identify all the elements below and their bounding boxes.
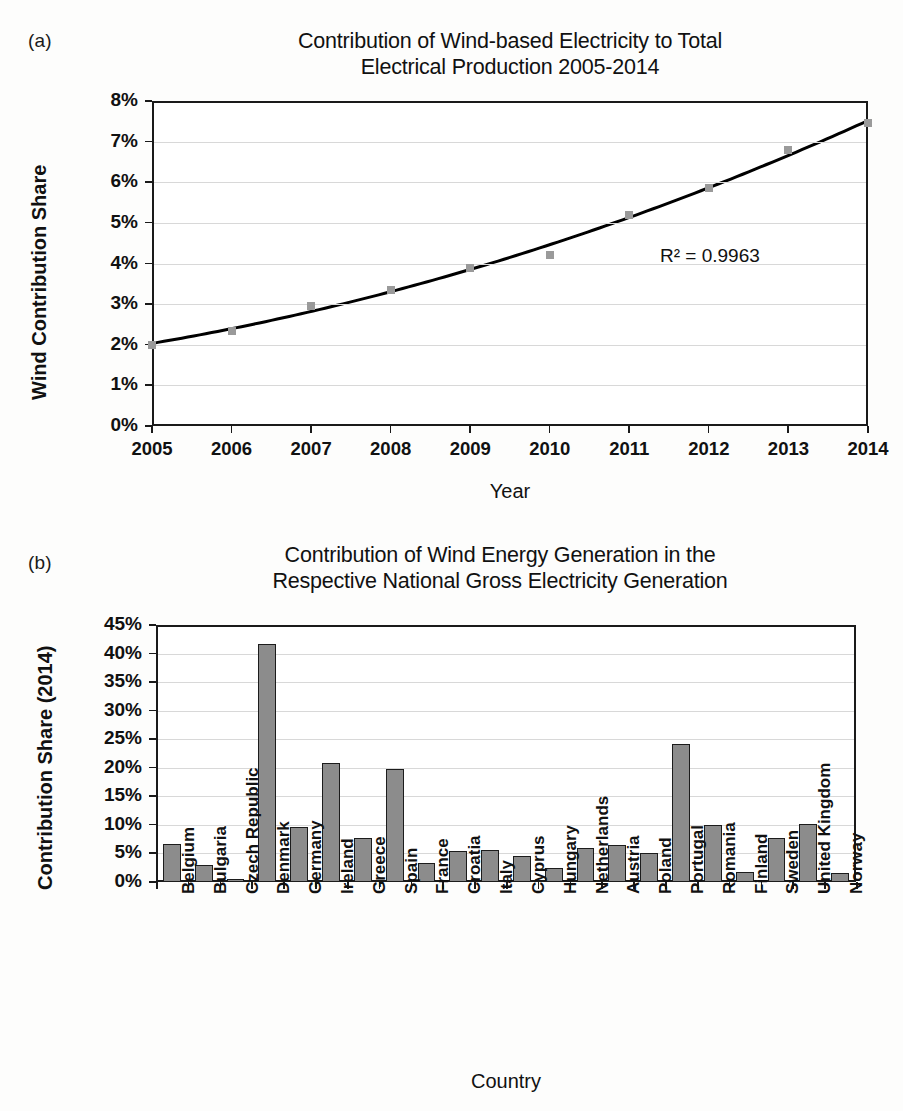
x-tick-label: 2008: [351, 438, 431, 460]
category-label: Cyprus: [529, 835, 549, 894]
x-tickmark: [628, 426, 630, 433]
y-tickmark: [149, 738, 156, 740]
x-tickmark: [787, 426, 789, 433]
category-label: Bulgaria: [211, 826, 231, 894]
data-point-marker: [148, 341, 156, 349]
y-tick-label: 15%: [72, 784, 142, 806]
x-tick-label: 2012: [669, 438, 749, 460]
gridline: [154, 142, 866, 143]
chart-a-plot-area: [152, 101, 868, 426]
x-tickmark: [867, 426, 869, 433]
x-tick-label: 2010: [510, 438, 590, 460]
y-tick-label: 3%: [72, 292, 138, 314]
category-label: Croatia: [465, 835, 485, 894]
x-tick-label: 2007: [271, 438, 351, 460]
data-point-marker: [546, 251, 554, 259]
chart-a-y-axis-title: Wind Contribution Share: [28, 165, 51, 400]
y-tickmark: [149, 624, 156, 626]
data-point-marker: [307, 302, 315, 310]
data-point-marker: [228, 327, 236, 335]
y-tick-label: 0%: [72, 870, 142, 892]
y-tick-label: 5%: [72, 211, 138, 233]
x-tickmark: [390, 426, 392, 433]
gridline: [154, 223, 866, 224]
data-point-marker: [705, 184, 713, 192]
y-tickmark: [149, 852, 156, 854]
chart-a-title-line2: Electrical Production 2005-2014: [160, 54, 860, 80]
y-tickmark: [149, 767, 156, 769]
category-label: Germany: [306, 820, 326, 894]
y-tick-label: 2%: [72, 333, 138, 355]
chart-b-title-line2: Respective National Gross Electricity Ge…: [130, 568, 870, 594]
category-label: Portugal: [688, 825, 708, 894]
y-tick-label: 8%: [72, 89, 138, 111]
category-label: Hungary: [561, 825, 581, 894]
category-label: Greece: [370, 836, 390, 894]
chart-panel-a: (a) Contribution of Wind-based Electrici…: [0, 0, 903, 530]
category-label: Netherlands: [593, 796, 613, 894]
x-tickmark: [156, 882, 158, 889]
category-label: Spain: [402, 848, 422, 894]
category-label: Denmark: [274, 821, 294, 894]
data-point-marker: [864, 119, 872, 127]
y-tickmark: [145, 181, 152, 183]
gridline: [154, 304, 866, 305]
y-tick-label: 4%: [72, 252, 138, 274]
x-tickmark: [708, 426, 710, 433]
category-label: Italy: [497, 860, 517, 894]
chart-a-x-axis-title: Year: [152, 480, 868, 503]
category-label: Belgium: [179, 827, 199, 894]
chart-a-r2-annotation: R² = 0.9963: [660, 245, 760, 267]
category-label: Norway: [847, 833, 867, 894]
y-tick-label: 10%: [72, 813, 142, 835]
y-tick-label: 20%: [72, 756, 142, 778]
gridline: [154, 385, 866, 386]
y-tick-label: 5%: [72, 841, 142, 863]
chart-b-title-line1: Contribution of Wind Energy Generation i…: [130, 542, 870, 568]
chart-panel-b: (b) Contribution of Wind Energy Generati…: [0, 530, 903, 1111]
y-tickmark: [145, 303, 152, 305]
gridline: [154, 182, 866, 183]
y-tickmark: [149, 795, 156, 797]
x-tickmark: [549, 426, 551, 433]
category-label: Czech Republic: [243, 767, 263, 894]
y-tickmark: [149, 681, 156, 683]
x-tickmark: [469, 426, 471, 433]
y-tick-label: 7%: [72, 130, 138, 152]
category-label: Poland: [656, 837, 676, 894]
y-tick-label: 1%: [72, 373, 138, 395]
panel-a-tag: (a): [28, 30, 52, 52]
y-tick-label: 40%: [72, 642, 142, 664]
chart-b-x-axis-title: Country: [156, 1070, 856, 1093]
y-tick-label: 45%: [72, 613, 142, 635]
y-tickmark: [145, 100, 152, 102]
y-tick-label: 0%: [72, 414, 138, 436]
panel-b-tag: (b): [28, 552, 52, 574]
x-tick-label: 2011: [589, 438, 669, 460]
x-tickmark: [310, 426, 312, 433]
data-point-marker: [784, 146, 792, 154]
gridline: [154, 345, 866, 346]
y-tickmark: [145, 263, 152, 265]
x-tickmark: [151, 426, 153, 433]
category-label: Romania: [720, 822, 740, 894]
chart-a-title-line1: Contribution of Wind-based Electricity t…: [160, 28, 860, 54]
y-tickmark: [145, 384, 152, 386]
category-label: Finland: [752, 834, 772, 894]
y-tickmark: [149, 881, 156, 883]
y-tick-label: 35%: [72, 670, 142, 692]
y-tickmark: [149, 653, 156, 655]
x-tick-label: 2014: [828, 438, 903, 460]
data-point-marker: [625, 211, 633, 219]
y-tickmark: [149, 710, 156, 712]
category-label: France: [433, 838, 453, 894]
chart-b-y-axis-title: Contribution Share (2014): [34, 646, 57, 890]
y-tick-label: 6%: [72, 170, 138, 192]
y-tick-label: 25%: [72, 727, 142, 749]
x-tick-label: 2006: [192, 438, 272, 460]
y-tick-label: 30%: [72, 699, 142, 721]
x-tickmark: [231, 426, 233, 433]
x-tick-label: 2005: [112, 438, 192, 460]
x-tick-label: 2013: [748, 438, 828, 460]
data-point-marker: [387, 286, 395, 294]
